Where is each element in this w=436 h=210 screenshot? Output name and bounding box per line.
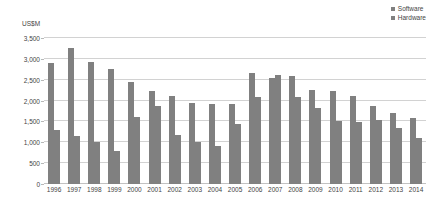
legend-label-software: Software [398, 6, 424, 13]
chart-legend: Software Hardware [391, 6, 426, 21]
legend-swatch-software-icon [391, 7, 395, 11]
bar-group [265, 38, 285, 184]
bar-hardware [235, 124, 241, 184]
legend-item-software: Software [391, 6, 424, 13]
bar-chart: Software Hardware US$M 05001,0001,5002,0… [0, 0, 436, 210]
bar-hardware [315, 108, 321, 184]
x-axis-tick-label: 2003 [185, 186, 205, 193]
y-axis-tick-label: 2,000 [6, 97, 40, 104]
bar-group [225, 38, 245, 184]
x-axis-tick-label: 2000 [124, 186, 144, 193]
bar-group [326, 38, 346, 184]
bar-hardware [336, 121, 342, 184]
bar-hardware [155, 106, 161, 184]
bar-hardware [275, 75, 281, 184]
legend-item-hardware: Hardware [391, 15, 426, 22]
bar-group [84, 38, 104, 184]
bar-group [366, 38, 386, 184]
bar-group [185, 38, 205, 184]
bar-group [104, 38, 124, 184]
x-axis-tick-label: 1998 [84, 186, 104, 193]
y-axis-tick-label: 1,500 [6, 118, 40, 125]
y-axis-tick-label: 0 [6, 181, 40, 188]
bar-hardware [175, 135, 181, 184]
bar-group [386, 38, 406, 184]
x-axis-tick-label: 2010 [326, 186, 346, 193]
bar-hardware [94, 142, 100, 184]
legend-label-hardware: Hardware [398, 15, 426, 22]
x-axis-tick-label: 1997 [64, 186, 84, 193]
x-axis-tick-label: 2014 [406, 186, 426, 193]
bar-hardware [295, 97, 301, 184]
bar-hardware [396, 128, 402, 184]
y-axis-tick-label: 3,500 [6, 35, 40, 42]
y-axis-title: US$M [22, 20, 40, 27]
bar-hardware [376, 120, 382, 184]
y-axis-tick-label: 2,500 [6, 76, 40, 83]
y-axis-tick-mark [41, 184, 44, 185]
bar-group [346, 38, 366, 184]
y-axis-tick-label: 3,000 [6, 55, 40, 62]
plot-area [44, 38, 426, 184]
bar-hardware [74, 136, 80, 184]
bar-hardware [416, 138, 422, 184]
bar-hardware [255, 97, 261, 184]
bar-group [406, 38, 426, 184]
bar-group [124, 38, 144, 184]
x-axis-tick-label: 2006 [245, 186, 265, 193]
y-axis-tick-label: 500 [6, 160, 40, 167]
bar-group [64, 38, 84, 184]
x-axis-tick-label: 2011 [346, 186, 366, 193]
bar-group [44, 38, 64, 184]
x-axis-tick-label: 2001 [145, 186, 165, 193]
x-axis-tick-label: 1999 [104, 186, 124, 193]
bar-group [285, 38, 305, 184]
bar-hardware [195, 142, 201, 184]
bar-groups [44, 38, 426, 184]
bar-group [245, 38, 265, 184]
x-axis-tick-label: 1996 [44, 186, 64, 193]
bar-group [305, 38, 325, 184]
bar-group [165, 38, 185, 184]
x-axis-tick-label: 2002 [165, 186, 185, 193]
x-axis-tick-label: 2008 [285, 186, 305, 193]
y-axis-tick-label: 1,000 [6, 139, 40, 146]
bar-hardware [356, 122, 362, 184]
bar-hardware [215, 146, 221, 184]
x-axis-tick-label: 2009 [305, 186, 325, 193]
x-axis: 1996199719981999200020012002200320042005… [44, 186, 426, 193]
bar-hardware [134, 117, 140, 184]
legend-swatch-hardware-icon [391, 16, 395, 20]
bar-hardware [114, 151, 120, 184]
bar-group [205, 38, 225, 184]
x-axis-tick-label: 2012 [366, 186, 386, 193]
x-axis-tick-label: 2013 [386, 186, 406, 193]
x-axis-tick-label: 2005 [225, 186, 245, 193]
x-axis-tick-label: 2004 [205, 186, 225, 193]
bar-hardware [54, 130, 60, 184]
x-axis-tick-label: 2007 [265, 186, 285, 193]
bar-group [145, 38, 165, 184]
